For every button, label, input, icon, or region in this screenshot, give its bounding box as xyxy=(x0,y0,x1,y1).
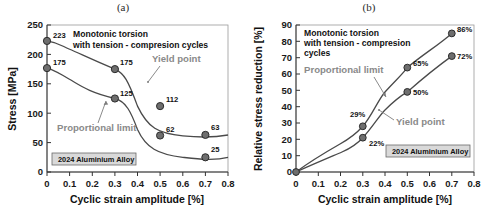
y-tick-label: 100 xyxy=(27,108,43,119)
chart-b-svg: 0 10 20 30 40 50 60 70 80 90 xyxy=(246,0,492,223)
x-ticks-b: 0 0.1 0.2 0.3 0.4 0.5 0.6 0.7 0.8 xyxy=(293,172,480,189)
y-tick-label: 30 xyxy=(281,117,292,128)
annotation-line: cycles xyxy=(304,48,331,58)
x-tick-label: 0 xyxy=(293,178,298,189)
x-tick-label: 0.8 xyxy=(221,178,234,189)
x-tick-label: 0.6 xyxy=(176,178,189,189)
y-tick-label: 80 xyxy=(281,36,292,47)
x-tick-label: 0.4 xyxy=(131,178,145,189)
legend-label-a: 2024 Aluminium Alloy xyxy=(58,155,135,164)
x-tick-label: 0.8 xyxy=(467,178,480,189)
point-label: 175 xyxy=(53,58,66,67)
y-axis-title-b: Relative stress reduction [%] xyxy=(252,27,264,171)
point-label: 63 xyxy=(211,123,219,132)
leader-dot xyxy=(147,81,149,83)
annotation-line: Monotonic torsion xyxy=(304,28,379,38)
y-tick-label: 20 xyxy=(281,134,292,145)
point-label: 72% xyxy=(457,52,472,61)
x-tick-label: 0.5 xyxy=(153,178,167,189)
x-tick-label: 0.7 xyxy=(199,178,212,189)
point-label: 22% xyxy=(369,139,384,148)
chart-panel-b: (b) 0 10 20 30 40 50 xyxy=(246,0,492,223)
x-axis-title-b: Cyclic strain amplitude [%] xyxy=(318,193,452,205)
y-tick-label: 10 xyxy=(281,150,292,161)
chart-panel-a: (a) 0 50 100 150 200 250 xyxy=(0,0,246,223)
x-tick-label: 0.7 xyxy=(445,178,458,189)
leader-yield-point-a xyxy=(148,66,160,82)
point-label: 50% xyxy=(413,88,428,97)
annotation-line: with tension - compresion cycles xyxy=(72,40,208,50)
point-label: 62 xyxy=(166,125,174,134)
leader-dot xyxy=(378,109,380,111)
y-tick-label: 90 xyxy=(281,19,292,30)
x-tick-label: 0.3 xyxy=(108,178,121,189)
x-tick-label: 0.5 xyxy=(401,178,415,189)
chart-a-svg: 0 50 100 150 200 250 0 0.1 0.2 xyxy=(0,0,246,223)
x-tick-label: 0.6 xyxy=(423,178,436,189)
y-tick-label: 200 xyxy=(27,49,43,60)
x-tick-label: 0.2 xyxy=(334,178,347,189)
y-tick-label: 150 xyxy=(27,78,43,89)
point-label: 86% xyxy=(457,25,472,34)
y-tick-label: 40 xyxy=(281,101,292,112)
legend-label-b: 2024 Aluminium Alloy xyxy=(392,147,469,156)
x-tick-label: 0.4 xyxy=(378,178,392,189)
series-proportional-limit-a xyxy=(47,68,228,159)
label-yield-point-b: Yield point xyxy=(396,116,445,127)
x-tick-label: 0.3 xyxy=(356,178,369,189)
x-ticks-a: 0 0.1 0.2 0.3 0.4 0.5 0.6 0.7 0.8 xyxy=(44,172,234,189)
point-label: 65% xyxy=(413,59,428,68)
x-axis-title-a: Cyclic strain amplitude [%] xyxy=(70,193,204,205)
y-tick-label: 50 xyxy=(281,85,292,96)
point-label: 175 xyxy=(120,58,133,67)
y-ticks-b: 0 10 20 30 40 50 60 70 80 90 xyxy=(281,19,300,177)
point-label: 112 xyxy=(166,95,178,104)
point-label: 223 xyxy=(53,31,66,40)
y-tick-label: 250 xyxy=(27,19,43,30)
figure-container: (a) 0 50 100 150 200 250 xyxy=(0,0,492,223)
y-tick-label: 0 xyxy=(287,166,292,177)
leader-arrowhead xyxy=(104,101,109,105)
label-yield-point-a: Yield point xyxy=(152,53,201,64)
x-tick-label: 0.2 xyxy=(86,178,99,189)
y-axis-title-a: Stress [MPa] xyxy=(6,67,18,131)
y-tick-label: 70 xyxy=(281,52,292,63)
annotation-line: with tension - compresion xyxy=(303,38,410,48)
point-label: 25 xyxy=(211,145,220,154)
y-tick-label: 60 xyxy=(281,68,292,79)
x-tick-label: 0.1 xyxy=(312,178,326,189)
x-tick-label: 0 xyxy=(44,178,49,189)
label-proportional-limit-a: Proportional limit xyxy=(57,122,137,133)
y-tick-label: 0 xyxy=(38,166,43,177)
point-label: 29% xyxy=(350,110,365,119)
x-tick-label: 0.1 xyxy=(63,178,77,189)
label-proportional-limit-b: Proportional limit xyxy=(304,64,384,75)
y-tick-label: 50 xyxy=(32,137,43,148)
point-label: 125 xyxy=(120,89,133,98)
annotation-line: Monotonic torsion xyxy=(73,29,148,39)
